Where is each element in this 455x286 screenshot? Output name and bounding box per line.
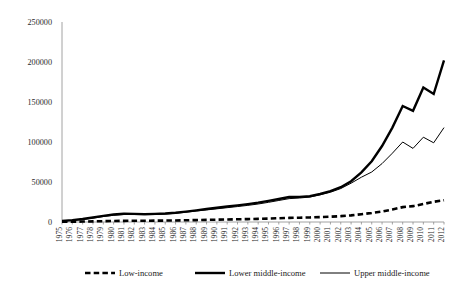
x-tick-label: 1975 [55, 227, 64, 242]
x-tick-label: 1980 [107, 227, 116, 242]
x-tick-label: 1988 [189, 227, 198, 242]
x-tick-label: 2009 [406, 227, 415, 242]
chart-legend: Low-incomeLower middle-incomeUpper middl… [85, 268, 430, 278]
x-tick-label: 2012 [437, 227, 446, 242]
x-tick-label: 2003 [344, 227, 353, 242]
y-tick-label: 0 [48, 218, 52, 227]
x-tick-label: 1994 [251, 227, 260, 242]
x-tick-label: 2007 [385, 227, 394, 242]
x-tick-label: 1993 [241, 227, 250, 242]
x-tick-label: 1983 [138, 227, 147, 242]
x-tick-label: 1977 [76, 227, 85, 242]
x-tick-label: 1991 [220, 227, 229, 242]
x-tick-label: 2010 [416, 227, 425, 242]
y-tick-label: 200000 [27, 58, 52, 67]
x-tick-label: 2001 [323, 227, 332, 242]
x-tick-label: 1986 [169, 227, 178, 242]
x-tick-label: 2004 [354, 227, 363, 242]
x-tick-label: 1992 [231, 227, 240, 242]
x-tick-label: 1996 [272, 227, 281, 242]
x-tick-label: 1990 [210, 227, 219, 242]
x-tick-label: 1987 [179, 227, 188, 242]
x-tick-label: 1978 [86, 227, 95, 242]
x-tick-label: 1997 [282, 227, 291, 242]
legend-label: Lower middle-income [229, 268, 306, 278]
x-tick-label: 1982 [127, 227, 136, 242]
x-tick-label: 1985 [158, 227, 167, 242]
y-tick-label: 150000 [27, 98, 52, 107]
x-tick-label: 1998 [292, 227, 301, 242]
y-tick-label: 50000 [32, 178, 52, 187]
x-tick-label: 2002 [334, 227, 343, 242]
x-tick-label: 1979 [96, 227, 105, 242]
x-tick-label: 1981 [117, 227, 126, 242]
x-tick-label: 1976 [65, 227, 74, 242]
y-tick-label: 250000 [27, 18, 52, 27]
x-tick-label: 2008 [396, 227, 405, 242]
x-tick-label: 1999 [303, 227, 312, 242]
legend-label: Low-income [119, 268, 163, 278]
x-tick-label: 1984 [148, 227, 157, 242]
y-tick-label: 100000 [27, 138, 52, 147]
x-tick-label: 2005 [365, 227, 374, 242]
x-tick-label: 1989 [200, 227, 209, 242]
x-tick-label: 1995 [261, 227, 270, 242]
line-chart: 050000100000150000200000250000 197519761… [0, 0, 455, 286]
x-axis-tick-labels: 1975197619771978197919801981198219831984… [55, 227, 446, 242]
x-tick-label: 2006 [375, 227, 384, 242]
x-tick-label: 2011 [427, 227, 436, 242]
x-tick-label: 2000 [313, 227, 322, 242]
chart-canvas: 050000100000150000200000250000 197519761… [0, 0, 455, 286]
legend-label: Upper middle-income [354, 268, 430, 278]
